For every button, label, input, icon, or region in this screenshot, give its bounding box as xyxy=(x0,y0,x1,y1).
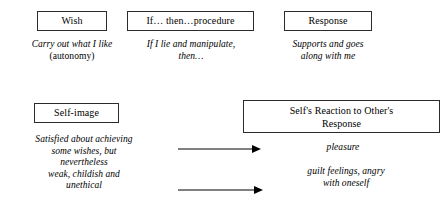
node-box-self-image: Self-image xyxy=(34,103,119,123)
caption-guilt-feelings: guilt feelings, angry with oneself xyxy=(272,166,420,189)
caption-pleasure: pleasure xyxy=(278,142,408,154)
caption-wish-line1: Carry out what I like xyxy=(32,39,113,49)
caption-response: Supports and goes along with me xyxy=(272,39,384,62)
caption-self-image: Satisfied about achieving some wishes, b… xyxy=(8,134,160,192)
node-box-response: Response xyxy=(284,11,372,31)
caption-wish: Carry out what I like(autonomy) xyxy=(8,39,136,62)
node-box-wish: Wish xyxy=(37,11,107,31)
arrow-right-icon-bottom xyxy=(178,183,264,197)
diagram-canvas: Wish If… then…procedure Response Carry o… xyxy=(0,0,448,212)
caption-if-then-procedure: If I lie and manipulate, then… xyxy=(126,39,256,62)
node-box-if-then-procedure: If… then…procedure xyxy=(127,11,254,31)
caption-wish-line2: (autonomy) xyxy=(50,51,95,61)
node-box-selfs-reaction-to-others-response: Self's Reaction to Other's Response xyxy=(243,100,440,133)
arrow-right-icon-top xyxy=(178,142,262,156)
